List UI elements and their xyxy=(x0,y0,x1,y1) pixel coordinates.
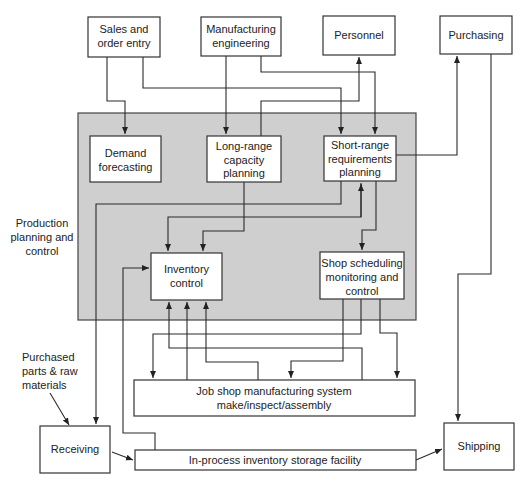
annotation-line-3: materials xyxy=(22,379,67,391)
job-shop-label-2: make/inspect/assembly xyxy=(217,399,332,411)
demand-label-2: forecasting xyxy=(99,161,153,173)
edge-purchased-parts-to-receiving xyxy=(50,393,69,425)
shop-sched-label-3: control xyxy=(345,285,378,297)
node-manufacturing-engineering: Manufacturing engineering xyxy=(201,17,281,56)
production-planning-diagram: Production planning and control xyxy=(0,0,532,487)
node-sales-order-entry: Sales and order entry xyxy=(88,17,160,57)
shop-sched-label-2: monitoring and xyxy=(326,271,399,283)
node-receiving: Receiving xyxy=(40,426,110,473)
purchased-parts-annotation: Purchased parts & raw materials xyxy=(22,351,78,391)
edge-in-process-to-shipping xyxy=(416,449,442,460)
in-process-label: In-process inventory storage facility xyxy=(189,454,362,466)
annotation-line-1: Purchased xyxy=(22,351,75,363)
region-label-line-1: Production xyxy=(16,217,69,229)
node-purchasing: Purchasing xyxy=(440,16,512,54)
job-shop-label-1: Job shop manufacturing system xyxy=(196,385,351,397)
node-inventory-control: Inventory control xyxy=(151,253,222,300)
node-long-range-capacity-planning: Long-range capacity planning xyxy=(207,136,281,182)
node-short-range-requirements-planning: Short-range requirements planning xyxy=(324,136,396,181)
short-range-label-2: requirements xyxy=(328,153,393,165)
sales-label-2: order entry xyxy=(97,37,151,49)
sales-label-1: Sales and xyxy=(100,23,149,35)
region-label-line-2: planning and xyxy=(10,231,73,243)
mfg-label-1: Manufacturing xyxy=(206,23,276,35)
node-personnel: Personnel xyxy=(323,16,395,55)
annotation-line-2: parts & raw xyxy=(22,365,78,377)
demand-label-1: Demand xyxy=(105,147,147,159)
short-range-label-1: Short-range xyxy=(331,139,389,151)
node-demand-forecasting: Demand forecasting xyxy=(90,136,161,182)
region-label-line-3: control xyxy=(25,245,58,257)
node-shipping: Shipping xyxy=(444,423,514,470)
long-range-label-3: planning xyxy=(223,167,265,179)
long-range-label-1: Long-range xyxy=(216,140,272,152)
node-job-shop-manufacturing: Job shop manufacturing system make/inspe… xyxy=(134,380,415,416)
edge-receiving-to-in-process xyxy=(112,452,133,460)
shipping-label: Shipping xyxy=(458,440,501,452)
region-label: Production planning and control xyxy=(10,217,73,257)
personnel-label: Personnel xyxy=(334,29,384,41)
edge-purchasing-to-shipping xyxy=(458,54,491,421)
inventory-label-2: control xyxy=(170,277,203,289)
mfg-label-2: engineering xyxy=(212,37,270,49)
receiving-label: Receiving xyxy=(51,443,99,455)
short-range-label-3: planning xyxy=(339,166,381,178)
purchasing-label: Purchasing xyxy=(448,29,503,41)
node-in-process-storage: In-process inventory storage facility xyxy=(135,450,416,470)
inventory-label-1: Inventory xyxy=(164,263,210,275)
shop-sched-label-1: Shop scheduling xyxy=(321,257,402,269)
node-shop-scheduling: Shop scheduling monitoring and control xyxy=(320,252,404,299)
long-range-label-2: capacity xyxy=(224,154,265,166)
